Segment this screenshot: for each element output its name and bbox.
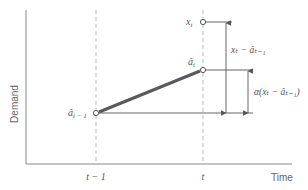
- label-a-hat-t: ât: [188, 56, 196, 69]
- error-annotation: xₜ − âₜ₋₁: [230, 45, 265, 55]
- exponential-smoothing-diagram: Demand Time t − 1 t xt ât ât − 1 xₜ − âₜ…: [0, 0, 308, 190]
- x-tick-t-minus-1: t − 1: [86, 171, 106, 182]
- y-axis-label: Demand: [9, 85, 20, 123]
- point-x-t: [200, 19, 205, 24]
- forecast-trend-line: [99, 71, 200, 112]
- point-a-hat-t-minus-1: [93, 110, 98, 115]
- point-a-hat-t: [200, 67, 205, 72]
- x-axis-label: Time: [271, 172, 293, 183]
- label-x-t: xt: [185, 16, 193, 29]
- x-tick-t: t: [202, 171, 205, 182]
- label-a-hat-t-minus-1: ât − 1: [68, 107, 87, 120]
- adjustment-annotation: α(xₜ − âₜ₋₁): [254, 87, 300, 98]
